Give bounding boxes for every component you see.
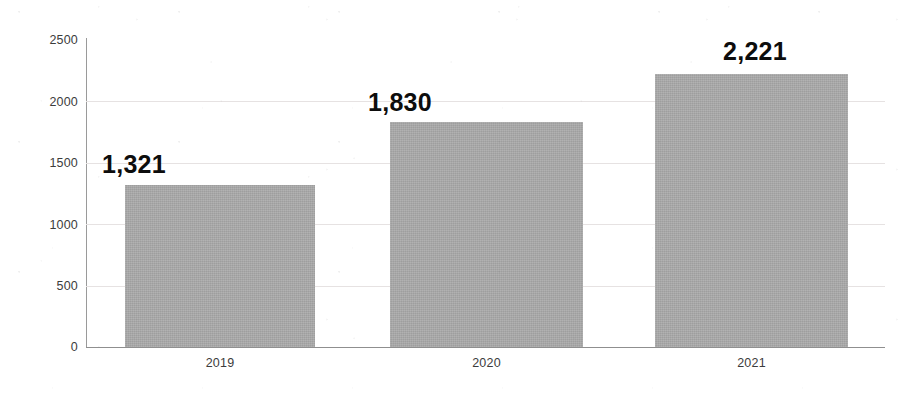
bar-value-2020: 1,830	[296, 88, 504, 117]
y-axis-tick-0: 0	[4, 340, 78, 354]
y-axis-tick-500: 500	[4, 279, 78, 293]
x-axis-category-2020: 2020	[390, 356, 583, 370]
bar-chart: 2500 2000 1500 1000 500 0 1,321 1,830 2,…	[0, 0, 924, 398]
x-axis-line	[86, 347, 885, 348]
y-axis-tick-2000: 2000	[4, 95, 78, 109]
x-axis-category-2019: 2019	[125, 356, 315, 370]
bar-2021[interactable]	[655, 74, 848, 347]
plot-area	[86, 40, 885, 347]
y-axis-tick-1000: 1000	[4, 218, 78, 232]
bar-value-2019: 1,321	[30, 150, 238, 179]
y-axis-tick-2500: 2500	[4, 33, 78, 47]
x-axis-category-2021: 2021	[655, 356, 848, 370]
bar-2020[interactable]	[390, 122, 583, 347]
bar-2019[interactable]	[125, 185, 315, 347]
bar-value-2021: 2,221	[651, 37, 859, 66]
